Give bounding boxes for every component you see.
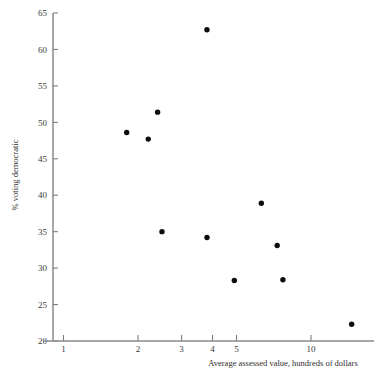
data-point-group	[124, 27, 354, 327]
y-tick-label: 40	[38, 190, 48, 200]
data-point	[204, 235, 209, 240]
data-point	[259, 201, 264, 206]
y-axis-title: % voting democratic	[10, 139, 20, 210]
y-tick-label: 35	[38, 227, 48, 237]
y-tick-label: 50	[38, 118, 48, 128]
y-tick-label: 60	[38, 45, 48, 55]
x-tick-label: 3	[179, 344, 184, 354]
x-tick-label: 2	[136, 344, 141, 354]
y-tick-label: 65	[38, 8, 48, 18]
data-point	[146, 136, 151, 141]
x-tick-label: 5	[234, 344, 239, 354]
data-point	[232, 278, 237, 283]
x-tick-label: 1	[61, 344, 66, 354]
y-axis-tick-labels: 20253035404550556065	[38, 8, 48, 346]
data-point	[349, 322, 354, 327]
data-point	[159, 229, 164, 234]
y-tick-label: 55	[38, 81, 48, 91]
x-axis-tick-labels: 1234510	[61, 344, 316, 354]
x-tick-label: 4	[210, 344, 215, 354]
y-tick-label: 25	[38, 300, 48, 310]
y-tick-label: 45	[38, 154, 48, 164]
data-point	[274, 243, 279, 248]
x-tick-label: 10	[307, 344, 317, 354]
y-tick-label: 30	[38, 263, 48, 273]
data-point	[124, 130, 129, 135]
x-axis-title: Average assessed value, hundreds of doll…	[208, 358, 358, 368]
data-point	[155, 109, 160, 114]
data-point	[280, 277, 285, 282]
x-axis-group: 1234510	[44, 335, 374, 354]
y-axis-group: 20253035404550556065	[38, 8, 58, 346]
plot-canvas: 20253035404550556065 1234510 Average ass…	[0, 0, 378, 378]
data-point	[204, 27, 209, 32]
scatter-plot-figure: 20253035404550556065 1234510 Average ass…	[0, 0, 378, 378]
x-axis-ticks	[64, 335, 312, 341]
